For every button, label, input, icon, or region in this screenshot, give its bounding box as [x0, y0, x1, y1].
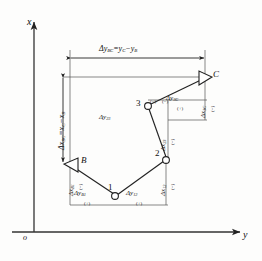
label-delta-y-BC: ΔyBC=yC−yB	[99, 45, 137, 54]
axis-label-y: y	[243, 229, 247, 240]
sign-near-3C: (−)	[162, 99, 168, 104]
sign-delta-y-B1: (+)	[84, 201, 90, 206]
sign-delta-x-12: (−)	[170, 184, 175, 190]
station-marker-1	[112, 193, 119, 200]
label-delta-x-12: Δx12	[160, 185, 167, 196]
point-label-3: 3	[136, 98, 141, 108]
sign-delta-x-3C: (−)	[210, 106, 215, 112]
label-delta-x-3C: Δx3C	[200, 106, 207, 118]
sign-delta-y-12: (+)	[136, 201, 142, 206]
station-marker-B	[64, 158, 78, 172]
figure-canvas: x y o ΔyBC=yC−yB ΔxBC=xC−xB B 1 2 3 C Δx…	[0, 0, 262, 261]
axis-label-x: x	[27, 16, 31, 27]
point-label-B: B	[81, 155, 87, 165]
label-delta-y-B1: ΔyB1	[74, 190, 86, 197]
sign-delta-x-23: (−)	[170, 139, 175, 145]
diagram-vector-layer	[0, 0, 262, 261]
axis-origin-label: o	[23, 233, 27, 242]
sign-near-3: (−)	[150, 99, 156, 104]
label-delta-x-BC: ΔxBC=xC−xB	[58, 112, 67, 150]
label-delta-y-12: Δy12	[126, 190, 137, 197]
label-delta-y-23: Δy23	[99, 114, 110, 121]
traverse-polyline	[72, 79, 203, 195]
sign-delta-y-3C: (+)	[177, 106, 183, 111]
point-label-1: 1	[108, 182, 113, 192]
station-marker-2	[163, 157, 170, 164]
point-label-C: C	[213, 69, 219, 79]
label-delta-x-23: Δx23	[160, 140, 167, 151]
station-marker-C	[199, 71, 212, 85]
